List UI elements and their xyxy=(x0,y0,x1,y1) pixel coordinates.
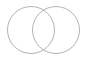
venn-diagram xyxy=(0,0,87,61)
left-circle xyxy=(8,7,55,54)
right-circle xyxy=(33,7,80,54)
